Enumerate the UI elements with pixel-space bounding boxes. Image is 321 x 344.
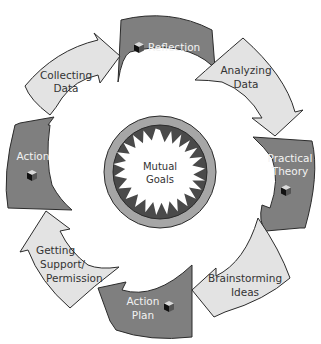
step-action-plan: Action Plan — [98, 265, 192, 338]
step-label: Brainstorming — [208, 272, 282, 284]
center-mutual-goals: Mutual Goals — [104, 116, 216, 228]
step-label: Action — [17, 150, 50, 162]
step-label: Plan — [132, 309, 154, 321]
step-label: Analyzing — [220, 64, 271, 76]
step-label: Permission — [46, 272, 103, 284]
step-reflection: Reflection — [118, 16, 215, 82]
step-practical-theory: Practical Theory — [253, 137, 315, 231]
center-label: Goals — [146, 174, 174, 185]
center-label: Mutual — [143, 161, 177, 172]
step-collecting-data: Collecting Data — [25, 33, 120, 115]
step-label: Getting — [36, 244, 75, 256]
cycle-diagram: Reflection Analyzing Data Practical Theo… — [0, 0, 321, 344]
step-label: Data — [53, 82, 78, 94]
step-label: Practical — [268, 152, 313, 164]
step-label: Collecting — [40, 69, 92, 81]
step-label: Data — [233, 78, 258, 90]
step-action: Action — [6, 117, 72, 210]
step-label: Action — [127, 295, 160, 307]
step-label: Reflection — [148, 41, 200, 53]
step-label: Support/ — [40, 258, 86, 270]
step-brainstorming-ideas: Brainstorming Ideas — [192, 218, 290, 317]
step-label: Ideas — [231, 286, 259, 298]
step-label: Theory — [271, 165, 308, 177]
